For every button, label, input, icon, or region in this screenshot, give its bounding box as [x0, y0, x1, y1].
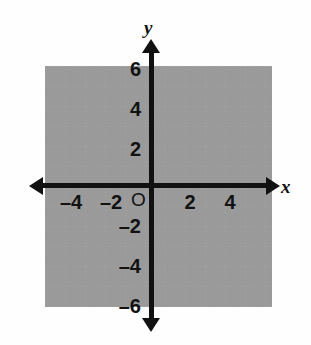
grid-line-horizontal — [45, 146, 272, 147]
y-axis-down-arrow-icon — [142, 318, 160, 332]
x-axis — [40, 183, 268, 188]
y-tick-label-6: 6 — [108, 59, 141, 79]
coordinate-plane-figure: x y O 6 4 2 –2 –4 –6 –4 –2 2 4 — [0, 0, 311, 345]
x-axis-right-arrow-icon — [266, 177, 280, 195]
grid-line-horizontal — [45, 246, 272, 247]
grid-line-horizontal — [45, 306, 272, 307]
grid-line-horizontal — [45, 166, 272, 167]
x-tick-label-neg4: –4 — [49, 192, 93, 212]
y-tick-label-neg6: –6 — [103, 296, 141, 316]
y-axis-label: y — [144, 18, 152, 37]
y-axis-up-arrow-icon — [142, 39, 160, 53]
y-tick-label-2: 2 — [108, 139, 141, 159]
grid-line-horizontal — [45, 106, 272, 107]
grid-line-horizontal — [45, 286, 272, 287]
x-tick-label-neg2: –2 — [89, 192, 133, 212]
y-tick-label-4: 4 — [108, 99, 141, 119]
x-tick-label-2: 2 — [176, 192, 204, 212]
x-axis-left-arrow-icon — [29, 177, 43, 195]
grid-line-horizontal — [45, 66, 272, 67]
y-axis — [149, 50, 154, 324]
x-axis-label: x — [281, 177, 291, 196]
origin-label: O — [131, 190, 146, 209]
grid-line-horizontal — [45, 86, 272, 87]
grid-line-horizontal — [45, 126, 272, 127]
x-tick-label-4: 4 — [216, 192, 244, 212]
y-tick-label-neg2: –2 — [103, 216, 141, 236]
grid-line-horizontal — [45, 226, 272, 227]
y-tick-label-neg4: –4 — [103, 256, 141, 276]
grid-line-horizontal — [45, 266, 272, 267]
